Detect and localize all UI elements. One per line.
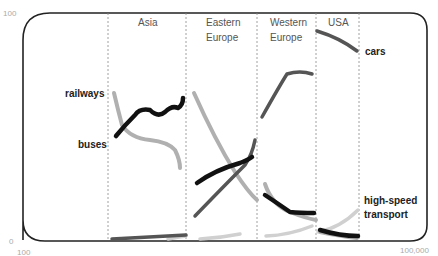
- region-label-eastern-europe: Eastern Europe: [206, 15, 240, 45]
- series-label-cars: cars: [365, 45, 386, 59]
- region-dividers: [108, 13, 359, 241]
- series-label-high-speed-line1: high-speed: [364, 195, 417, 206]
- series-label-railways: railways: [65, 87, 104, 101]
- series-label-high-speed-line2: transport: [364, 209, 408, 220]
- region-label-asia: Asia: [138, 15, 157, 30]
- y-axis-min-label: 0: [9, 237, 13, 246]
- region-label-eastern-line2: Europe: [206, 32, 238, 43]
- region-label-usa: USA: [328, 15, 349, 30]
- x-axis-min-label: 100: [17, 248, 30, 256]
- x-axis-max-label: 100,000: [400, 246, 429, 255]
- y-axis-max-label: 100: [3, 9, 16, 18]
- region-label-western-line2: Europe: [270, 32, 302, 43]
- series-label-buses: buses: [78, 138, 107, 152]
- region-label-eastern-line1: Eastern: [206, 17, 240, 28]
- series-cars: [112, 31, 357, 239]
- series-buses: [116, 98, 358, 236]
- series-label-high-speed-transport: high-speed transport: [364, 194, 417, 222]
- region-label-western-line1: Western: [270, 17, 307, 28]
- region-label-western-europe: Western Europe: [270, 15, 307, 45]
